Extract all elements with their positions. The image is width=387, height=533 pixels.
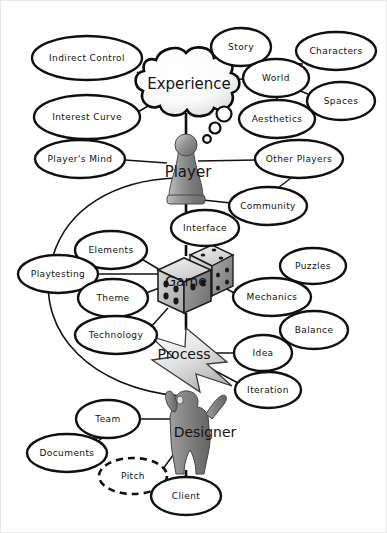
node-label-theme: Theme xyxy=(95,293,129,303)
node-process[interactable]: Process xyxy=(150,328,232,392)
node-technology[interactable]: Technology xyxy=(75,316,157,354)
edge-player-other-players xyxy=(198,160,256,161)
node-label-world: World xyxy=(262,73,290,83)
node-game[interactable]: Game xyxy=(158,245,233,313)
node-community[interactable]: Community xyxy=(229,187,307,225)
node-iteration[interactable]: Iteration xyxy=(235,372,301,408)
node-label-game: Game xyxy=(165,273,207,289)
edge-other-players-community xyxy=(278,178,291,188)
node-designer[interactable]: Designer xyxy=(166,391,237,474)
thought-bubble-icon-2 xyxy=(210,123,221,134)
node-label-client: Client xyxy=(172,491,201,501)
designer-face-highlight xyxy=(177,396,183,404)
node-label-team: Team xyxy=(94,414,120,424)
edge-player-community xyxy=(203,200,231,203)
node-label-iteration: Iteration xyxy=(247,385,289,395)
node-label-experience: Experience xyxy=(147,75,231,93)
node-label-pitch: Pitch xyxy=(121,471,145,481)
node-documents[interactable]: Documents xyxy=(27,434,107,472)
node-label-puzzles: Puzzles xyxy=(295,261,331,271)
node-players-mind[interactable]: Player's Mind xyxy=(35,140,125,178)
pawn-base xyxy=(167,195,205,204)
game-design-mind-map: Experience Player xyxy=(0,0,387,533)
node-characters[interactable]: Characters xyxy=(296,32,376,70)
node-label-community: Community xyxy=(240,201,296,211)
node-label-idea: Idea xyxy=(252,348,273,358)
node-world[interactable]: World xyxy=(243,59,309,97)
diagram-canvas: Experience Player xyxy=(0,0,387,533)
node-interface[interactable]: Interface xyxy=(171,210,239,246)
node-puzzles[interactable]: Puzzles xyxy=(280,248,346,284)
node-label-technology: Technology xyxy=(88,330,144,340)
thought-bubble-icon-1 xyxy=(217,107,232,122)
node-player[interactable]: Player xyxy=(165,113,213,204)
node-label-aesthetics: Aesthetics xyxy=(252,114,303,124)
pawn-head xyxy=(175,134,197,156)
node-label-story: Story xyxy=(228,42,254,52)
edge-players-mind-player xyxy=(125,160,167,163)
node-label-process: Process xyxy=(157,346,210,362)
node-label-interest-curve: Interest Curve xyxy=(52,112,122,122)
node-label-mechanics: Mechanics xyxy=(247,292,298,302)
node-aesthetics[interactable]: Aesthetics xyxy=(239,100,315,138)
node-balance[interactable]: Balance xyxy=(280,311,348,349)
node-label-players-mind: Player's Mind xyxy=(48,154,113,164)
thought-bubble-icon-3 xyxy=(203,135,211,143)
node-indirect-control[interactable]: Indirect Control xyxy=(32,36,142,80)
node-client[interactable]: Client xyxy=(151,477,221,515)
node-label-other-players: Other Players xyxy=(266,154,332,164)
node-team[interactable]: Team xyxy=(76,400,140,438)
node-label-interface: Interface xyxy=(183,223,227,233)
node-label-designer: Designer xyxy=(174,424,237,440)
node-mechanics[interactable]: Mechanics xyxy=(233,278,311,316)
node-interest-curve[interactable]: Interest Curve xyxy=(34,95,140,139)
node-theme[interactable]: Theme xyxy=(78,279,148,317)
node-label-elements: Elements xyxy=(88,245,133,255)
node-label-spaces: Spaces xyxy=(324,96,359,106)
node-spaces[interactable]: Spaces xyxy=(307,82,375,120)
node-label-balance: Balance xyxy=(295,325,334,335)
node-other-players[interactable]: Other Players xyxy=(255,140,343,178)
node-idea[interactable]: Idea xyxy=(234,335,292,371)
node-label-indirect-control: Indirect Control xyxy=(49,53,125,63)
node-label-player: Player xyxy=(165,163,213,181)
node-label-characters: Characters xyxy=(309,46,362,56)
node-label-playtesting: Playtesting xyxy=(31,269,85,279)
node-label-documents: Documents xyxy=(40,448,95,458)
